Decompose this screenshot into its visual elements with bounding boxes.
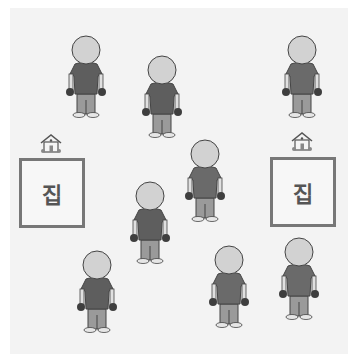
house-box-left: 집 — [19, 158, 85, 228]
person-figure — [126, 180, 174, 266]
house-label: 집 — [42, 177, 62, 209]
person-icon — [181, 138, 229, 224]
person-figure — [275, 236, 323, 322]
person-figure — [138, 54, 186, 140]
house-icon — [290, 131, 314, 151]
house-label: 집 — [293, 176, 313, 208]
person-icon — [126, 180, 174, 266]
person-icon — [278, 34, 326, 120]
person-icon — [138, 54, 186, 140]
person-figure — [62, 34, 110, 120]
house-icon — [39, 133, 63, 153]
person-figure — [73, 249, 121, 335]
person-icon — [275, 236, 323, 322]
person-figure — [205, 244, 253, 330]
person-icon — [205, 244, 253, 330]
person-icon — [62, 34, 110, 120]
house-box-right: 집 — [270, 157, 336, 227]
person-figure — [278, 34, 326, 120]
person-icon — [73, 249, 121, 335]
person-figure — [181, 138, 229, 224]
